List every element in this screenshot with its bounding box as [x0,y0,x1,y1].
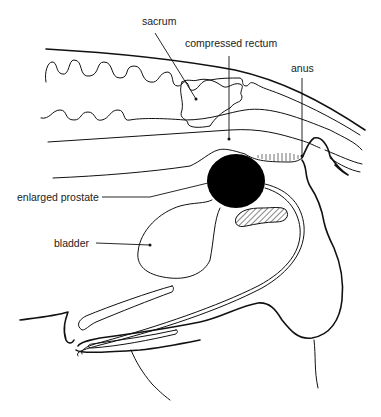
label-enlarged-prostate: enlarged prostate [17,191,99,203]
thigh-line-right [314,340,318,388]
leader-sacrum-dot [195,98,198,101]
leader-enlarged-prostate-2 [150,183,208,197]
bladder-outline [138,200,220,278]
label-bladder: bladder [54,237,90,249]
penis-corpus-upper [79,286,174,330]
pelvis-diagram: sacrum compressed rectum anus enlarged p… [0,0,381,417]
leader-anus-dot [301,155,304,158]
vertebrae-lower-outline [41,109,362,150]
label-compressed-rectum: compressed rectum [185,37,277,49]
penis-glans-outline [20,312,74,343]
buttock-skin-lines [325,150,362,172]
leader-bladder-dot [149,244,152,247]
label-sacrum: sacrum [142,15,177,27]
label-anus: anus [291,62,314,74]
pubic-bone [235,208,287,227]
enlarged-prostate-mass [207,154,265,208]
rectum-upper-wall [48,130,320,148]
thigh-line-left [131,350,170,400]
anal-canal-hatching [258,153,298,161]
rectum-lower-wall [53,149,302,178]
leader-compressed-rectum-dot [228,138,231,141]
leader-bladder [96,243,150,245]
